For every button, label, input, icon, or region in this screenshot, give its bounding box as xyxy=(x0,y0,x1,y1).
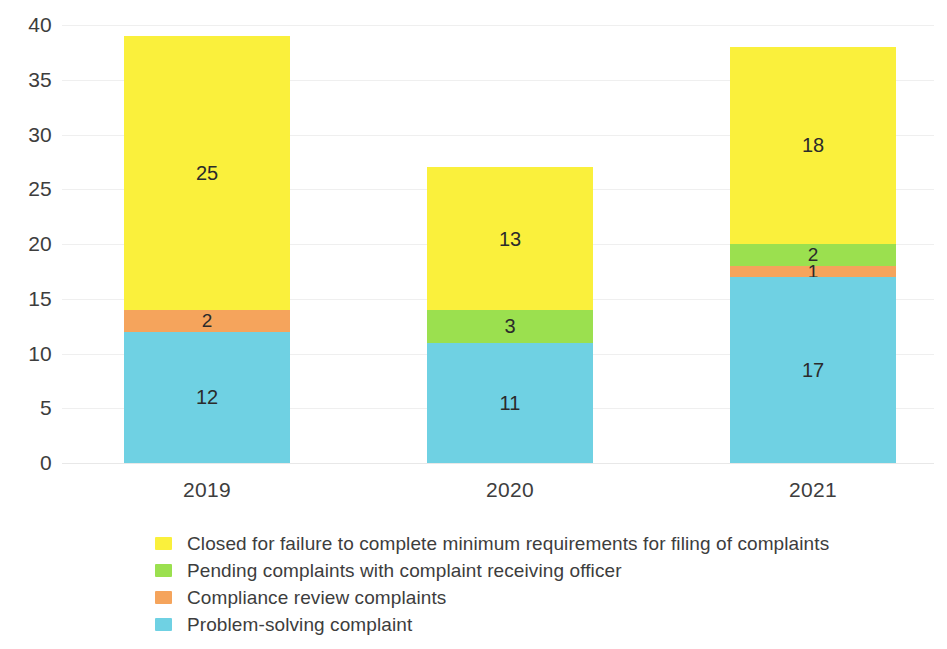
bar-segment[interactable]: 11 xyxy=(427,343,593,463)
bar-segment[interactable]: 12 xyxy=(124,332,290,463)
stacked-bar-chart: 4035302520151050 2521213311182117 201920… xyxy=(0,0,947,649)
y-axis-tick-label: 15 xyxy=(8,288,52,309)
legend-swatch-icon xyxy=(155,591,172,604)
legend-item[interactable]: Pending complaints with complaint receiv… xyxy=(155,557,935,584)
legend-swatch-icon xyxy=(155,564,172,577)
y-axis-tick-label: 30 xyxy=(8,124,52,145)
legend-item-label: Pending complaints with complaint receiv… xyxy=(187,560,622,582)
bar-segment-value-label: 11 xyxy=(500,393,521,413)
bar-segment-value-label: 3 xyxy=(504,316,515,336)
bar-2019[interactable]: 25212 xyxy=(124,36,290,463)
bar-segment-value-label: 2 xyxy=(202,311,213,330)
x-axis-tick-label: 2019 xyxy=(107,478,307,502)
bar-segment-value-label: 12 xyxy=(196,387,218,407)
y-axis-tick-label: 20 xyxy=(8,233,52,254)
y-axis-tick-label: 5 xyxy=(8,397,52,418)
bar-segment[interactable]: 1 xyxy=(730,266,896,277)
y-axis-tick-label: 25 xyxy=(8,178,52,199)
legend-swatch-icon xyxy=(155,618,172,631)
legend-item[interactable]: Problem-solving complaint xyxy=(155,611,935,638)
legend-item-label: Compliance review complaints xyxy=(187,587,446,609)
x-axis-tick-label: 2021 xyxy=(713,478,913,502)
y-axis-tick-label: 40 xyxy=(8,14,52,35)
plot-area: 2521213311182117 xyxy=(62,25,934,463)
y-axis-tick-label: 10 xyxy=(8,343,52,364)
legend-item[interactable]: Closed for failure to complete minimum r… xyxy=(155,530,935,557)
bar-segment-value-label: 17 xyxy=(802,360,824,380)
bar-segment[interactable]: 3 xyxy=(427,310,593,343)
bar-segment[interactable]: 13 xyxy=(427,167,593,309)
x-axis-tick-label: 2020 xyxy=(410,478,610,502)
bar-2020[interactable]: 13311 xyxy=(427,167,593,463)
y-axis-tick-label: 35 xyxy=(8,69,52,90)
y-axis: 4035302520151050 xyxy=(0,25,52,463)
legend-swatch-icon xyxy=(155,537,172,550)
legend-item-label: Problem-solving complaint xyxy=(187,614,412,636)
bar-segment[interactable]: 25 xyxy=(124,36,290,310)
legend-item[interactable]: Compliance review complaints xyxy=(155,584,935,611)
bar-2021[interactable]: 182117 xyxy=(730,47,896,463)
gridline xyxy=(62,463,934,464)
bar-segment-value-label: 25 xyxy=(196,163,218,183)
bar-segment-value-label: 13 xyxy=(499,229,521,249)
bar-segment-value-label: 18 xyxy=(802,135,824,155)
bar-segment[interactable]: 17 xyxy=(730,277,896,463)
legend-item-label: Closed for failure to complete minimum r… xyxy=(187,533,829,555)
y-axis-tick-label: 0 xyxy=(8,452,52,473)
gridline xyxy=(62,25,934,26)
bar-segment[interactable]: 18 xyxy=(730,47,896,244)
chart-legend: Closed for failure to complete minimum r… xyxy=(155,530,935,638)
bar-segment[interactable]: 2 xyxy=(124,310,290,332)
